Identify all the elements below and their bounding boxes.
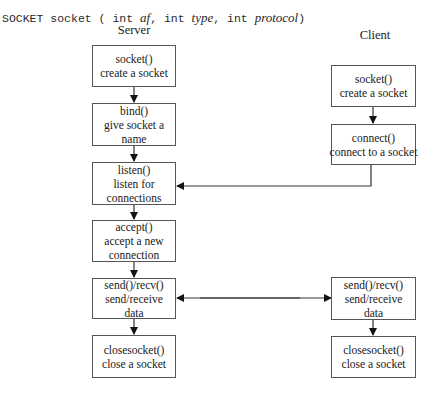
function-name: closesocket() — [343, 343, 404, 357]
function-name: socket() — [115, 52, 152, 66]
function-description: close a socket — [102, 357, 166, 371]
function-name: socket() — [355, 72, 392, 86]
function-description: data — [364, 306, 383, 320]
function-description: connect to a socket — [330, 145, 418, 159]
function-description: connections — [107, 191, 162, 205]
function-description: data — [124, 306, 143, 320]
function-description: send/receive — [105, 292, 162, 306]
function-name: bind() — [120, 104, 148, 118]
function-name: listen() — [118, 163, 151, 177]
function-name: connect() — [352, 131, 395, 145]
function-name: accept() — [115, 220, 152, 234]
function-description: name — [122, 132, 147, 146]
server-accept-box: accept() accept a new connection — [92, 220, 176, 262]
function-name: closesocket() — [104, 343, 165, 357]
function-description: listen for — [113, 177, 154, 191]
server-socket-box: socket() create a socket — [92, 45, 176, 87]
function-description: send/receive — [345, 292, 402, 306]
function-name: send()/recv() — [344, 278, 403, 292]
function-description: accept a new — [104, 234, 163, 248]
connector-lines — [0, 0, 430, 394]
function-name: send()/recv() — [104, 278, 163, 292]
server-listen-box: listen() listen for connections — [92, 162, 176, 205]
function-description: close a socket — [342, 357, 406, 371]
function-description: create a socket — [100, 66, 168, 80]
client-socket-box: socket() create a socket — [331, 65, 416, 107]
server-sendrecv-box: send()/recv() send/receive data — [92, 278, 176, 319]
client-close-box: closesocket() close a socket — [331, 336, 416, 378]
server-bind-box: bind() give socket a name — [92, 103, 176, 146]
function-description: give socket a — [104, 118, 164, 132]
function-description: create a socket — [340, 86, 408, 100]
client-connect-box: connect() connect to a socket — [331, 124, 416, 165]
client-sendrecv-box: send()/recv() send/receive data — [331, 277, 416, 320]
function-description: connection — [109, 248, 159, 262]
server-close-box: closesocket() close a socket — [92, 335, 176, 378]
